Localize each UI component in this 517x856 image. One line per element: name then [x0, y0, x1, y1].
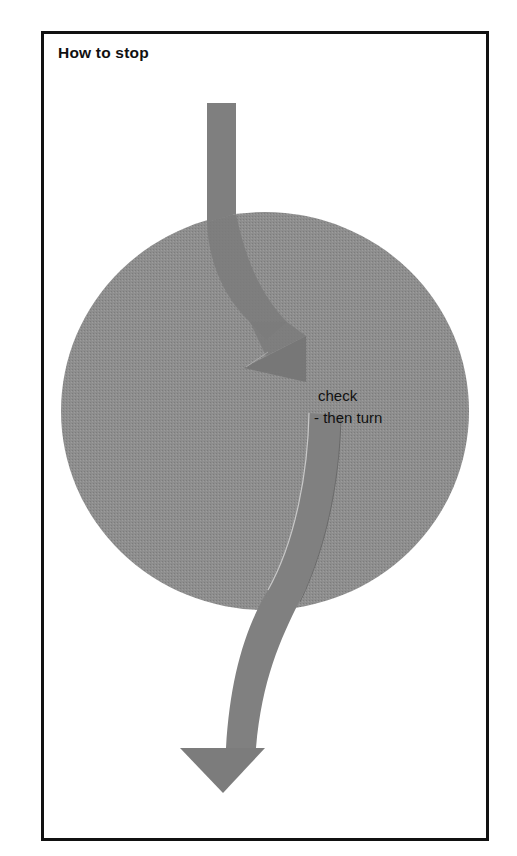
- roundabout-circle: [61, 212, 469, 610]
- annotation-then-turn: - then turn: [314, 408, 382, 427]
- annotation-check: check: [318, 386, 357, 405]
- diagram-graphics: [0, 0, 517, 856]
